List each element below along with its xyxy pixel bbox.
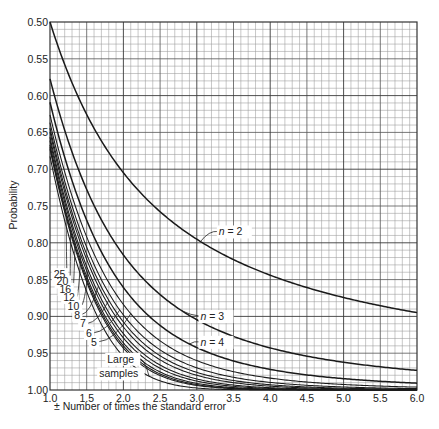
y-tick-label: 0.80 xyxy=(28,237,49,249)
y-tick-label: 0.60 xyxy=(28,90,49,102)
y-tick-label: 0.95 xyxy=(28,347,49,359)
curve-label: 5 xyxy=(91,336,97,348)
curve-label: samples xyxy=(99,367,138,379)
grid-mid xyxy=(50,22,417,390)
x-tick-label: 3.5 xyxy=(226,392,241,404)
y-axis-ticks: 0.500.550.600.650.700.750.800.850.900.95… xyxy=(28,16,49,396)
curve-label: n = 2 xyxy=(219,225,243,237)
y-tick-label: 0.85 xyxy=(28,274,49,286)
y-tick-label: 0.65 xyxy=(28,126,49,138)
y-tick-label: 0.50 xyxy=(28,16,49,28)
curve-label: n = 4 xyxy=(200,336,224,348)
curve-label: Large xyxy=(107,353,134,365)
y-tick-label: 0.55 xyxy=(28,53,49,65)
probability-chart: n = 2n = 3n = 425201612108765Largesample… xyxy=(0,0,439,429)
x-axis-label: ± Number of times the standard error xyxy=(54,400,227,412)
x-tick-label: 5.0 xyxy=(336,392,351,404)
y-axis-label: Probability xyxy=(7,180,19,230)
x-tick-label: 5.5 xyxy=(373,392,388,404)
x-tick-label: 4.5 xyxy=(300,392,315,404)
y-tick-label: 0.90 xyxy=(28,310,49,322)
y-tick-label: 0.75 xyxy=(28,200,49,212)
x-tick-label: 4.0 xyxy=(263,392,278,404)
y-tick-label: 1.00 xyxy=(28,384,49,396)
curve-label: n = 3 xyxy=(200,310,224,322)
x-tick-label: 6.0 xyxy=(410,392,425,404)
y-tick-label: 0.70 xyxy=(28,163,49,175)
